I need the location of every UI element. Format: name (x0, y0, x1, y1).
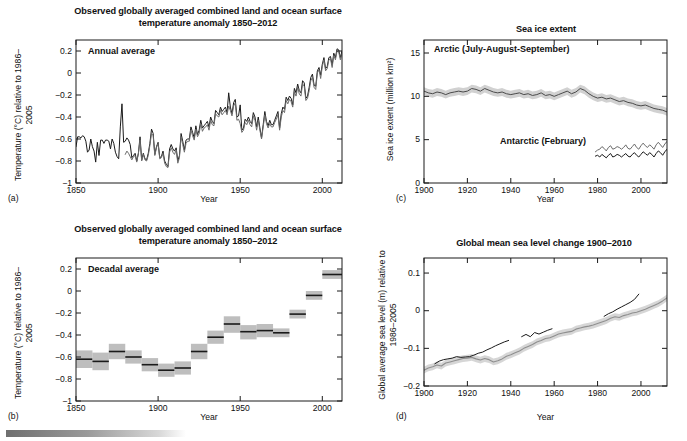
panel-b-plot (75, 257, 343, 402)
panel-b-xlabel: Year (76, 412, 342, 422)
panel-d-xtick: 1900 (404, 388, 444, 398)
panel-d-label: (d) (396, 411, 407, 421)
panel-c-ytick: 5 (380, 134, 420, 144)
panel-a-plot (75, 39, 343, 184)
panel-c-ytick: 15 (380, 48, 420, 58)
panel-b-ytick: −0.8 (32, 374, 72, 384)
panel-a-xlabel: Year (76, 194, 342, 204)
panel-d-xtick: 1940 (491, 388, 531, 398)
panel-a-ytick: −0.8 (32, 156, 72, 166)
panel-b-ytick: −0.6 (32, 352, 72, 362)
panel-a-xtick: 2000 (302, 185, 342, 195)
panel-b-ytick: −0.4 (32, 330, 72, 340)
panel-d-ytick: 0.1 (380, 268, 420, 278)
panel-c-xtick: 1920 (447, 185, 487, 195)
panel-d-ytick: 0 (380, 305, 420, 315)
panel-a-xtick: 1950 (220, 185, 260, 195)
panel-c-plot (423, 39, 668, 184)
panel-c-xlabel: Year (424, 194, 667, 204)
panel-b-xtick: 1950 (220, 403, 260, 413)
panel-c-xtick: 1980 (578, 185, 618, 195)
panel-b-xtick: 2000 (302, 403, 342, 413)
panel-d-title: Global mean sea level change 1900–2010 (418, 238, 670, 250)
panel-a-xtick: 1900 (138, 185, 178, 195)
panel-a-ytick: 0 (32, 68, 72, 78)
panel-a-ytick: 0.2 (32, 46, 72, 56)
panel-d-xtick: 2000 (621, 388, 661, 398)
panel-b-label: (b) (8, 411, 19, 421)
panel-d-xtick: 1920 (447, 388, 487, 398)
panel-b-xtick: 1900 (138, 403, 178, 413)
panel-d-ytick: −0.1 (380, 343, 420, 353)
panel-d-xtick: 1960 (534, 388, 574, 398)
panel-c-xtick: 1900 (404, 185, 444, 195)
panel-a-label: (a) (8, 193, 19, 203)
panel-d-xtick: 1980 (578, 388, 618, 398)
panel-b-ytick: 0 (32, 286, 72, 296)
panel-a-ytick: −0.6 (32, 134, 72, 144)
climate-indicators-figure: Observed globally averaged combined land… (0, 0, 687, 441)
panel-b-xtick: 1850 (56, 403, 96, 413)
panel-c-title: Sea ice extent (430, 24, 662, 36)
panel-a-ytick: −0.2 (32, 90, 72, 100)
panel-d-xlabel: Year (424, 412, 667, 422)
panel-a-title: Observed globally averaged combined land… (72, 6, 344, 29)
panel-d-plot (423, 257, 668, 387)
panel-b-ytick: 0.2 (32, 264, 72, 274)
panel-c-xtick: 1940 (491, 185, 531, 195)
panel-b-title: Observed globally averaged combined land… (72, 224, 344, 247)
panel-c-xtick: 2000 (621, 185, 661, 195)
panel-b-ytick: −0.2 (32, 308, 72, 318)
panel-c-xtick: 1960 (534, 185, 574, 195)
panel-c-ytick: 10 (380, 91, 420, 101)
decorative-gradient-bar (6, 430, 186, 437)
panel-a-ytick: −0.4 (32, 112, 72, 122)
panel-a-xtick: 1850 (56, 185, 96, 195)
